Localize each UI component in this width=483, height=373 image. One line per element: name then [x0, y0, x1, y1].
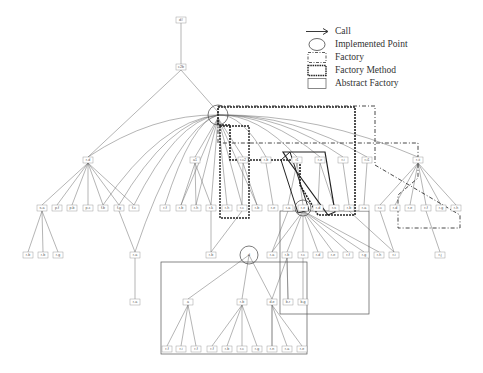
graph-node: r-a: [359, 205, 369, 211]
node-label: r-f: [346, 253, 349, 257]
call-edge: [119, 115, 218, 205]
graph-node: r-e: [405, 205, 415, 211]
graph-node: r-h: [191, 205, 201, 211]
node-label: r-e: [271, 206, 275, 210]
node-label: r-c: [240, 206, 244, 210]
graph-node: r-j: [435, 252, 445, 258]
node-label: r-f: [210, 347, 213, 351]
call-edge: [195, 163, 196, 205]
graph-node: r-h: [222, 205, 232, 211]
node-label: r-c: [378, 206, 382, 210]
call-edge: [249, 255, 272, 299]
call-edge: [272, 258, 287, 299]
graph-node: r-d: [313, 205, 323, 211]
call-edge: [181, 163, 195, 205]
graph-node: r-f: [421, 205, 431, 211]
graph-node: r-e: [268, 205, 278, 211]
node-label: r-i: [392, 253, 395, 257]
pattern-regions: [161, 106, 460, 354]
legend-item-factory-method: Factory Method: [305, 64, 475, 77]
call-edge: [418, 163, 441, 205]
graph-node: b-r: [283, 299, 293, 305]
call-edge: [218, 118, 227, 205]
call-edge: [227, 305, 242, 346]
graph-node: p-b: [67, 205, 77, 211]
call-edge: [181, 70, 218, 112]
graph-node: a1: [190, 157, 200, 163]
dash-dot-box-icon: [305, 51, 331, 64]
graph-node: r-b: [344, 205, 354, 211]
call-edge: [343, 163, 349, 205]
node-label: p-b: [69, 206, 74, 210]
graph-node: r-d: [313, 252, 323, 258]
node-label: r-d: [316, 206, 320, 210]
call-edge: [242, 305, 257, 346]
node-label: r-e: [331, 253, 335, 257]
call-edge: [188, 255, 249, 299]
graph-node: r-b: [252, 205, 262, 211]
node-label: r-i: [341, 158, 344, 162]
call-edge: [218, 118, 257, 205]
graph-node: r-i: [176, 346, 186, 352]
arrow-icon: [305, 25, 331, 38]
graph-node: r-b: [222, 346, 232, 352]
node-label: r-a: [362, 206, 366, 210]
node-label: r-i: [179, 347, 182, 351]
node-label: r-ii: [416, 158, 420, 162]
node-label: r-a: [133, 253, 137, 257]
graph-node: r-h: [374, 252, 384, 258]
node-label: r1: [295, 158, 298, 162]
node-label: r-g: [362, 253, 366, 257]
graph-node: r-h: [451, 205, 461, 211]
thick-dashed-box-icon: [305, 64, 331, 77]
call-edge: [272, 211, 303, 252]
node-label: f-c: [132, 206, 136, 210]
node-label: r-a: [285, 347, 289, 351]
call-edge: [57, 163, 88, 205]
call-edge: [426, 211, 440, 252]
node-label: r-i1: [364, 158, 369, 162]
implemented-points: hdr-a: [208, 105, 311, 264]
legend-label: Abstract Factory: [335, 77, 399, 90]
call-edge: [218, 115, 418, 157]
graph-node: r-e: [315, 157, 325, 163]
graph-node: r-ii: [413, 157, 423, 163]
call-edge: [364, 163, 367, 205]
node-label: r-b: [285, 253, 289, 257]
node-label: b-g: [300, 300, 305, 304]
call-edge: [380, 163, 418, 205]
node-label: d-e: [269, 300, 274, 304]
call-edge: [42, 211, 43, 252]
graph-node: r-c: [375, 205, 385, 211]
call-edge: [272, 305, 302, 346]
node-label: r-d: [86, 158, 90, 162]
graph-node: r-i: [338, 157, 348, 163]
graph-node: r-c: [237, 346, 247, 352]
call-edge: [135, 115, 218, 252]
node-label: r-e: [318, 158, 322, 162]
node-label: s-a: [40, 206, 45, 210]
graph-node: r-b: [282, 252, 292, 258]
node-label: r-f: [163, 206, 166, 210]
graph-node: r-b: [176, 205, 186, 211]
node-label: r-c2: [240, 158, 246, 162]
call-edge: [287, 258, 288, 299]
call-edge: [88, 163, 134, 205]
node-label: r-a: [133, 300, 137, 304]
call-edge: [272, 305, 287, 346]
legend: Call Implemented Point Factory Factory M…: [305, 25, 475, 90]
node-label: r-g: [56, 253, 60, 257]
node-label: r-g: [439, 206, 443, 210]
call-edge: [88, 163, 103, 205]
node-label: r-b: [264, 158, 268, 162]
graph-node: c2b: [176, 64, 186, 70]
call-edge: [303, 211, 318, 252]
node-label: r-e: [408, 206, 412, 210]
graph-node: r-b: [206, 252, 216, 258]
node-label: r-d: [393, 206, 397, 210]
node-label: r-j: [438, 253, 441, 257]
node-label: p-f: [55, 206, 59, 210]
graph-node: p-f: [52, 205, 62, 211]
legend-item-abstract-factory: Abstract Factory: [305, 77, 475, 90]
node-label: p-c: [86, 206, 91, 210]
